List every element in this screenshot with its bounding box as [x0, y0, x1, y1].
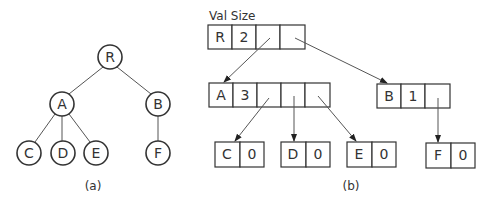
pointer-r-b: [295, 38, 387, 83]
tree-node-b: B: [146, 92, 170, 116]
node-label: F: [154, 145, 162, 161]
edge-a-e: [69, 114, 90, 142]
val-text: E: [355, 146, 364, 162]
edge-a-c: [35, 114, 55, 142]
val-text: B: [384, 88, 394, 104]
edge-r-b: [117, 67, 151, 94]
record-d: D 0: [281, 142, 330, 167]
val-text: R: [215, 29, 225, 45]
header-val-size: Val Size: [209, 9, 255, 23]
val-text: F: [434, 147, 442, 163]
caption-b: (b): [343, 179, 360, 193]
node-label: E: [92, 145, 101, 161]
diagram-canvas: R A B C D E F (a) Val Size: [0, 0, 491, 201]
size-text: 0: [314, 146, 323, 162]
record-e: E 0: [347, 142, 396, 167]
tree-node-a: A: [50, 92, 74, 116]
val-text: A: [216, 87, 226, 103]
size-text: 0: [248, 146, 257, 162]
size-text: 0: [380, 146, 389, 162]
pointer-a-e: [318, 96, 356, 141]
record-diagram: Val Size R 2 A 3 B 1: [208, 9, 475, 193]
node-label: C: [24, 145, 34, 161]
size-text: 3: [241, 87, 250, 103]
tree-node-d: D: [51, 141, 75, 165]
node-label: D: [58, 145, 69, 161]
record-a: A 3: [209, 83, 330, 107]
val-text: D: [288, 146, 299, 162]
node-label: A: [57, 96, 67, 112]
tree-node-c: C: [17, 141, 41, 165]
pointer-cell: [256, 25, 280, 49]
tree-diagram: R A B C D E F (a): [17, 45, 170, 193]
size-text: 2: [240, 29, 249, 45]
record-r: R 2: [208, 25, 305, 49]
node-label: R: [105, 49, 115, 65]
tree-node-e: E: [84, 141, 108, 165]
tree-node-f: F: [146, 141, 170, 165]
record-f: F 0: [426, 143, 475, 168]
pointer-cell: [280, 25, 305, 49]
record-c: C 0: [215, 142, 264, 167]
edge-r-a: [69, 67, 103, 94]
val-text: C: [222, 146, 232, 162]
caption-a: (a): [85, 179, 102, 193]
record-b: B 1: [377, 84, 450, 108]
tree-node-r: R: [98, 45, 122, 69]
node-label: B: [153, 96, 163, 112]
size-text: 0: [459, 147, 468, 163]
size-text: 1: [409, 88, 418, 104]
